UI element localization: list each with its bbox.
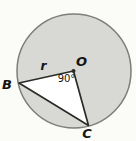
center-label: O [76,55,87,68]
angle-measure-label: 90° [58,74,76,84]
radius-label: r [41,60,47,72]
point-c-label: C [82,127,92,140]
point-b-label: B [2,78,12,91]
geometry-figure: O r 90° B C [0,0,136,141]
diagram-canvas [0,0,136,141]
